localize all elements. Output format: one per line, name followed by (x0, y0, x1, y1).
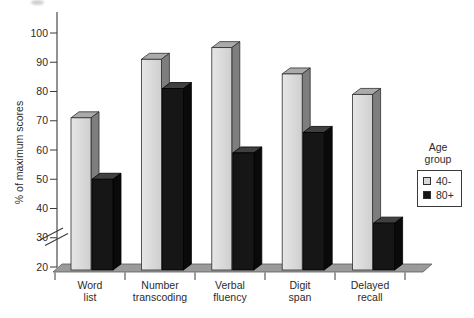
bar-80-word-list-side (113, 173, 121, 270)
legend-entry-40: 40- (423, 174, 461, 188)
bar-80-digit-span-front (303, 132, 324, 270)
bar-80-number-transcoding-side (183, 83, 191, 270)
legend-label-80: 80+ (436, 190, 454, 200)
bar-80-digit-span-side (324, 126, 332, 270)
x-category-label: span (289, 291, 312, 303)
chart-plot-area: 2030405060708090100WordlistNumbertransco… (0, 0, 474, 318)
x-category-label: recall (357, 291, 382, 303)
y-tick-label: 40 (36, 202, 48, 214)
bar-80-delayed-recall-side (395, 217, 403, 270)
bar-80-number-transcoding-front (162, 89, 183, 270)
y-tick-label: 80 (36, 85, 48, 97)
y-tick-label: 50 (36, 173, 48, 185)
y-axis-title: % of maximum scores (13, 88, 26, 218)
bar-80-verbal-fluency-front (233, 153, 254, 270)
legend-entry-80: 80+ (423, 188, 461, 202)
x-category-label: Word (78, 279, 103, 291)
bar-40-word-list-front (71, 118, 91, 270)
legend-swatch-80 (423, 191, 431, 199)
bar-40-verbal-fluency-front (212, 48, 232, 270)
y-tick-label: 90 (36, 56, 48, 68)
legend-title: Age group (415, 142, 461, 165)
y-tick-label: 70 (36, 114, 48, 126)
legend-box: 40- 80+ (417, 170, 462, 207)
x-category-label: Verbal (215, 279, 245, 291)
legend-label-40: 40- (436, 176, 451, 186)
y-tick-label: 100 (30, 27, 48, 39)
x-category-label: list (84, 291, 97, 303)
bar-40-digit-span-front (282, 74, 302, 270)
x-category-label: Digit (289, 279, 310, 291)
legend-swatch-40 (423, 177, 431, 185)
y-tick-label: 20 (36, 261, 48, 273)
bar-40-number-transcoding-front (141, 59, 161, 270)
x-category-label: Delayed (351, 279, 390, 291)
x-category-label: fluency (213, 291, 247, 303)
bar-80-verbal-fluency-side (254, 147, 262, 270)
y-tick-label: 60 (36, 144, 48, 156)
bar-chart-figure: 2030405060708090100WordlistNumbertransco… (0, 0, 474, 318)
bar-40-delayed-recall-front (353, 94, 373, 270)
x-category-label: Number (141, 279, 179, 291)
bar-80-delayed-recall-front (374, 223, 395, 270)
x-category-label: transcoding (133, 291, 187, 303)
bar-80-word-list-front (92, 179, 113, 270)
